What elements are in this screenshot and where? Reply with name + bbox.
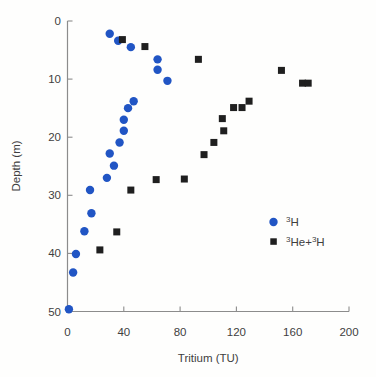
data-point-3He+3H [195,56,202,63]
data-point-3H [124,104,132,112]
data-point-3H [120,116,128,124]
data-point-3He+3H [210,139,217,146]
y-tick-label: 20 [48,131,61,143]
data-point-3He+3H [113,228,120,235]
data-point-3He+3H [127,187,134,194]
data-point-3H [153,55,161,63]
x-tick-label: 120 [227,326,246,338]
data-point-3H [69,268,77,276]
data-point-3H [80,227,88,235]
data-point-3H [110,161,118,169]
legend-marker-3H [269,218,277,226]
data-point-3H [127,43,135,51]
data-point-3H [72,250,80,258]
y-tick-label: 50 [48,306,61,318]
y-tick-label: 10 [48,73,61,85]
data-point-3H [153,66,161,74]
data-point-3H [65,305,73,313]
data-point-3He+3H [246,98,253,105]
data-point-3He+3H [201,151,208,158]
data-point-3He+3H [181,176,188,183]
data-point-3He+3H [220,127,227,134]
data-point-3He+3H [230,104,237,111]
scatter-plot: 0408012016020001020304050Tritium (TU)Dep… [0,0,376,377]
x-tick-label: 40 [117,326,130,338]
legend-label-3He+3H: 3He+3H [286,235,325,248]
data-point-3H [120,127,128,135]
y-axis-title: Depth (m) [10,140,22,191]
data-point-3H [106,30,114,38]
y-tick-label: 30 [48,189,61,201]
x-tick-label: 200 [339,326,358,338]
y-tick-label: 0 [55,15,61,27]
data-point-3H [106,149,114,157]
y-tick-label: 40 [48,247,61,259]
data-point-3He+3H [153,176,160,183]
figure: 0408012016020001020304050Tritium (TU)Dep… [0,0,376,377]
data-point-3H [103,174,111,182]
data-point-3H [115,138,123,146]
data-point-3He+3H [119,36,126,43]
legend-marker-3He+3H [270,238,277,245]
data-point-3He+3H [239,104,246,111]
data-point-3H [129,97,137,105]
x-tick-label: 160 [283,326,302,338]
x-tick-label: 80 [174,326,187,338]
data-point-3He+3H [219,115,226,122]
data-point-3He+3H [278,67,285,74]
data-point-3H [86,186,94,194]
legend-label-3H: 3H [286,215,299,228]
x-axis-title: Tritium (TU) [178,352,239,364]
data-point-3He+3H [141,43,148,50]
data-point-3H [163,77,171,85]
data-point-3H [87,209,95,217]
x-tick-label: 0 [64,326,70,338]
data-point-3He+3H [96,246,103,253]
data-point-3He+3H [305,80,312,87]
